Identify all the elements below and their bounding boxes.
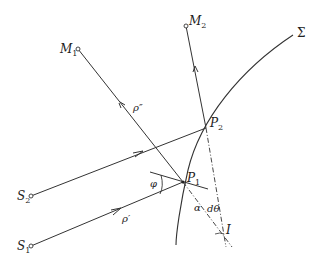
label-p1: P1 bbox=[186, 171, 200, 187]
label-m1: M1 bbox=[59, 42, 77, 58]
label-s1: S1 bbox=[17, 239, 30, 255]
label-rho-prime: ρ′ bbox=[121, 213, 131, 224]
label-alpha: α bbox=[194, 202, 201, 213]
normal-p2 bbox=[206, 128, 226, 247]
ray-s2-p2 bbox=[31, 128, 206, 196]
label-phi: φ bbox=[150, 178, 157, 189]
label-sigma: Σ bbox=[297, 26, 305, 40]
ray-s1-p1 bbox=[31, 182, 183, 246]
ray-p2-m2 bbox=[186, 26, 206, 128]
label-p2: P2 bbox=[209, 116, 223, 132]
angle-dtheta-arc bbox=[215, 233, 224, 234]
optics-diagram: M1 M2 S1 S2 P1 P2 I Σ ρ″ ρ′ φ α dθ bbox=[0, 0, 323, 265]
label-i: I bbox=[225, 223, 231, 237]
ray-p1-m1 bbox=[78, 49, 183, 182]
label-s2: S2 bbox=[17, 189, 30, 205]
label-m2: M2 bbox=[188, 14, 206, 30]
point-p1 bbox=[181, 180, 184, 183]
label-d-theta: dθ bbox=[207, 203, 219, 214]
label-rho-double-prime: ρ″ bbox=[132, 102, 143, 113]
point-m2 bbox=[184, 24, 188, 28]
